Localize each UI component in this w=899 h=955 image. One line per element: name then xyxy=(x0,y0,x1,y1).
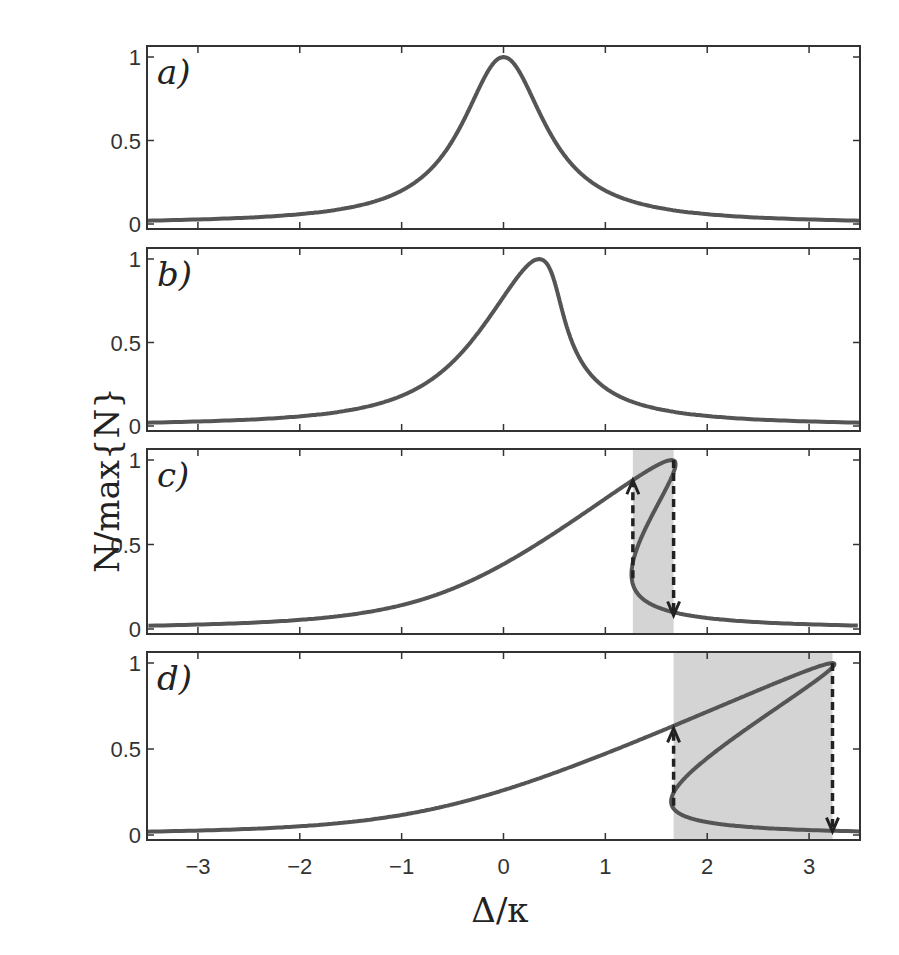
x-axis-label: Δ/κ xyxy=(471,890,528,930)
panel-a: 00.51a) xyxy=(110,45,860,237)
panel-label: b) xyxy=(157,254,192,294)
axes-frame xyxy=(147,449,860,634)
response-curve xyxy=(147,259,860,423)
y-tick-label: 0 xyxy=(129,212,141,237)
y-axis-label: N/max{N} xyxy=(87,387,127,573)
y-tick-label: 0.5 xyxy=(110,737,141,762)
axes-frame xyxy=(147,248,860,431)
y-tick-label: 1 xyxy=(129,247,141,272)
panel-label: d) xyxy=(157,658,192,698)
panel-c: 00.51c) xyxy=(110,448,860,642)
y-tick-label: 0.5 xyxy=(110,129,141,154)
y-tick-label: 0 xyxy=(129,823,141,848)
response-curve xyxy=(148,460,857,626)
panel-label: c) xyxy=(157,455,189,495)
x-tick-label: −3 xyxy=(185,854,210,879)
y-tick-label: 0 xyxy=(129,414,141,439)
x-tick-label: 3 xyxy=(803,854,815,879)
x-tick-label: −2 xyxy=(287,854,312,879)
y-tick-label: 0 xyxy=(129,617,141,642)
y-tick-label: 0.5 xyxy=(110,331,141,356)
axes-frame xyxy=(147,46,860,229)
panel-label: a) xyxy=(157,52,191,92)
y-tick-label: 1 xyxy=(129,448,141,473)
response-curve xyxy=(147,57,860,221)
panel-b: 00.51b) xyxy=(110,247,860,439)
figure: 00.51a)00.51b)00.51c)00.51d)−3−2−10123Δ/… xyxy=(0,0,899,955)
y-tick-label: 1 xyxy=(129,651,141,676)
x-tick-label: 0 xyxy=(497,854,509,879)
x-tick-label: 1 xyxy=(599,854,611,879)
bistable-region xyxy=(674,652,833,840)
y-tick-label: 1 xyxy=(129,45,141,70)
x-tick-label: 2 xyxy=(701,854,713,879)
x-tick-label: −1 xyxy=(389,854,414,879)
panel-d: 00.51d) xyxy=(110,651,860,848)
